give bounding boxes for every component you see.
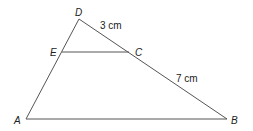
point-label-a: A: [13, 115, 21, 126]
measure-dc: 3 cm: [100, 20, 122, 31]
segment-db: [79, 19, 227, 119]
segment-da: [26, 19, 79, 119]
triangle-diagram: D E C A B 3 cm 7 cm: [0, 0, 253, 131]
measure-cb: 7 cm: [176, 73, 198, 84]
point-label-d: D: [75, 7, 82, 18]
point-label-e: E: [50, 47, 57, 58]
point-label-b: B: [231, 115, 238, 126]
point-label-c: C: [135, 47, 143, 58]
